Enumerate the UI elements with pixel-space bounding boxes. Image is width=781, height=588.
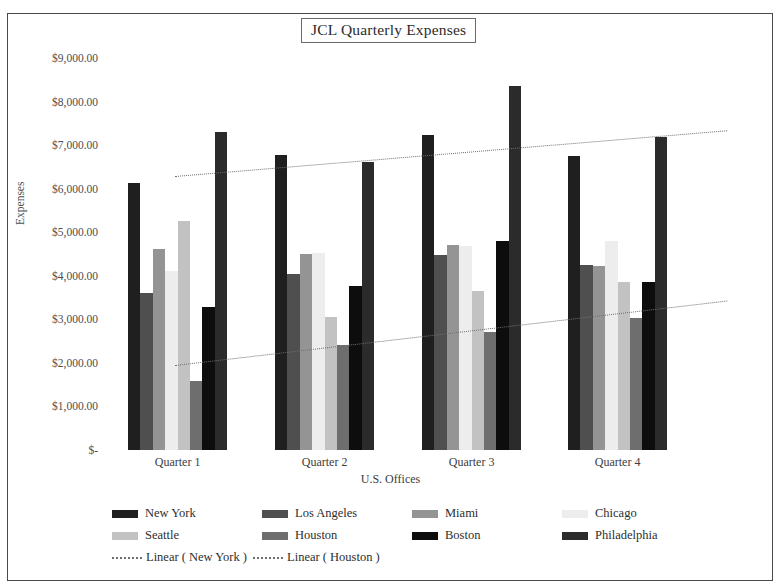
legend-item[interactable]: Seattle <box>112 528 262 543</box>
y-axis-tick: $1,000.00 <box>52 400 98 412</box>
legend-label: Boston <box>445 528 480 543</box>
legend-label: Chicago <box>595 506 637 521</box>
bar[interactable] <box>215 132 227 450</box>
legend-item[interactable]: Chicago <box>562 506 712 521</box>
legend-label: Los Angeles <box>295 506 357 521</box>
legend-item[interactable]: New York <box>112 506 262 521</box>
legend-item[interactable]: Miami <box>412 506 562 521</box>
legend-trendline-sample <box>112 557 142 559</box>
y-axis-tick: $7,000.00 <box>52 139 98 151</box>
bar[interactable] <box>484 332 496 450</box>
chart-legend: New YorkLos AngelesMiamiChicagoSeattleHo… <box>112 506 712 565</box>
legend-label: Linear ( Houston ) <box>287 550 380 565</box>
chart-screenshot: JCL Quarterly Expenses $9,000.00$8,000.0… <box>0 0 781 588</box>
legend-item[interactable]: Philadelphia <box>562 528 712 543</box>
bar[interactable] <box>190 381 202 450</box>
legend-swatch <box>562 510 588 518</box>
legend-row-trendlines: Linear ( New York )Linear ( Houston ) <box>112 550 712 565</box>
x-axis-tick: Quarter 3 <box>422 455 522 470</box>
x-axis-title: U.S. Offices <box>0 472 781 487</box>
legend-swatch <box>262 532 288 540</box>
legend-item-trendline[interactable]: Linear ( New York ) <box>112 550 247 565</box>
bar[interactable] <box>325 317 337 450</box>
bar-group <box>275 0 374 450</box>
bar[interactable] <box>300 254 312 450</box>
legend-item[interactable]: Houston <box>262 528 412 543</box>
bar[interactable] <box>593 266 605 450</box>
y-axis-tick: $9,000.00 <box>52 52 98 64</box>
y-axis-tick-labels: $9,000.00$8,000.00$7,000.00$6,000.00$5,0… <box>0 0 98 588</box>
bar[interactable] <box>630 318 642 450</box>
bar[interactable] <box>140 293 152 450</box>
y-axis-tick: $2,000.00 <box>52 357 98 369</box>
legend-label: Miami <box>445 506 478 521</box>
legend-label: Linear ( New York ) <box>146 550 247 565</box>
bar-group <box>568 0 667 450</box>
legend-item[interactable]: Boston <box>412 528 562 543</box>
y-axis-title: Expenses <box>14 182 26 225</box>
legend-swatch <box>112 510 138 518</box>
legend-row: New YorkLos AngelesMiamiChicago <box>112 506 712 521</box>
bar[interactable] <box>337 345 349 450</box>
bar[interactable] <box>128 183 140 450</box>
legend-item-trendline[interactable]: Linear ( Houston ) <box>253 550 380 565</box>
bar[interactable] <box>165 271 177 450</box>
y-axis-tick: $5,000.00 <box>52 226 98 238</box>
legend-swatch <box>412 532 438 540</box>
bar[interactable] <box>509 86 521 450</box>
legend-label: Houston <box>295 528 337 543</box>
bar[interactable] <box>472 291 484 450</box>
bar[interactable] <box>605 241 617 450</box>
x-axis-tick: Quarter 1 <box>128 455 228 470</box>
y-axis-tick: $3,000.00 <box>52 313 98 325</box>
y-axis-tick: $6,000.00 <box>52 183 98 195</box>
bar[interactable] <box>642 282 654 450</box>
bar[interactable] <box>580 265 592 450</box>
y-axis-tick: $4,000.00 <box>52 270 98 282</box>
bar[interactable] <box>434 255 446 450</box>
legend-trendline-sample <box>253 557 283 559</box>
y-axis-tick: $8,000.00 <box>52 96 98 108</box>
bar[interactable] <box>312 253 324 450</box>
bar[interactable] <box>618 282 630 450</box>
legend-item[interactable]: Los Angeles <box>262 506 412 521</box>
bar[interactable] <box>447 245 459 450</box>
bar[interactable] <box>496 241 508 450</box>
legend-swatch <box>262 510 288 518</box>
legend-swatch <box>412 510 438 518</box>
y-axis-tick: $- <box>88 444 98 456</box>
bar[interactable] <box>459 246 471 450</box>
bar[interactable] <box>275 155 287 450</box>
bar[interactable] <box>362 162 374 450</box>
legend-swatch <box>562 532 588 540</box>
bar[interactable] <box>422 135 434 450</box>
bar-group <box>422 0 521 450</box>
bar-group <box>128 0 227 450</box>
legend-label: Seattle <box>145 528 179 543</box>
legend-swatch <box>112 532 138 540</box>
bar[interactable] <box>655 137 667 450</box>
bar[interactable] <box>349 286 361 450</box>
bar[interactable] <box>202 307 214 450</box>
x-axis-tick: Quarter 2 <box>275 455 375 470</box>
bar[interactable] <box>287 274 299 450</box>
bar[interactable] <box>178 221 190 450</box>
legend-row: SeattleHoustonBostonPhiladelphia <box>112 528 712 543</box>
bar[interactable] <box>568 156 580 450</box>
legend-label: Philadelphia <box>595 528 658 543</box>
bar[interactable] <box>153 249 165 450</box>
x-axis-tick: Quarter 4 <box>568 455 668 470</box>
legend-label: New York <box>145 506 196 521</box>
